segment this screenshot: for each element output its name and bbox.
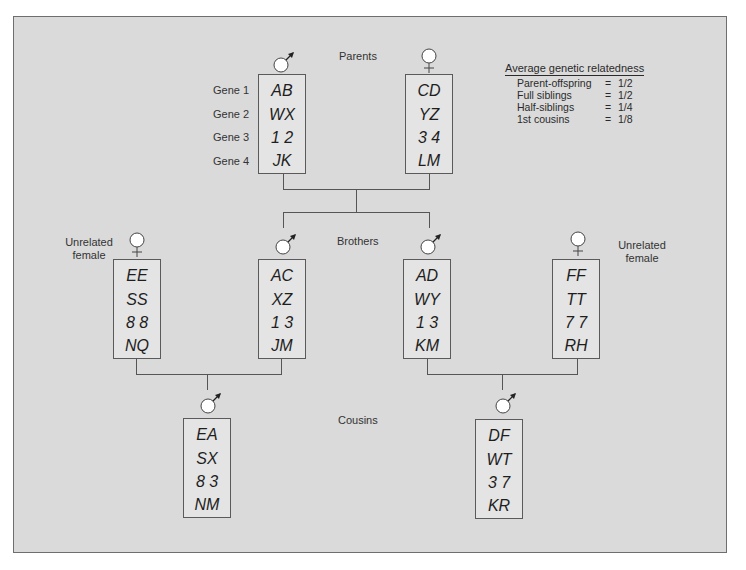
male-symbol-icon	[199, 391, 225, 415]
connector-line	[429, 212, 430, 228]
connector-line	[429, 174, 430, 189]
connector-line	[427, 358, 428, 374]
legend-row-full-siblings: Full siblings=1/2	[517, 90, 633, 101]
connector-line	[283, 174, 284, 189]
male-symbol-icon	[494, 391, 520, 415]
connector-line	[577, 358, 578, 374]
genotype-box-unrelated-female-right: FF TT 7 7 RH	[552, 259, 600, 359]
label-unrelated-female-left: Unrelated female	[61, 236, 117, 262]
legend-row-parent-offspring: Parent-offspring=1/2	[517, 78, 633, 89]
legend-title: Average genetic relatedness	[505, 62, 644, 76]
legend-row-first-cousins: 1st cousins=1/8	[517, 114, 633, 125]
gene-label-3: Gene 3	[213, 131, 249, 144]
connector-line	[207, 374, 208, 390]
connector-line	[283, 212, 284, 228]
female-symbol-icon	[419, 48, 439, 74]
female-symbol-icon	[568, 231, 588, 257]
connector-line	[281, 358, 282, 374]
genotype-box-father: AB WX 1 2 JK	[258, 74, 306, 174]
connector-line	[136, 358, 137, 374]
gene-label-1: Gene 1	[213, 84, 249, 97]
label-parents: Parents	[339, 50, 377, 63]
genotype-box-brother-left: AC XZ 1 3 JM	[258, 259, 306, 359]
genotype-box-mother: CD YZ 3 4 LM	[405, 74, 453, 174]
genotype-box-cousin-left: EA SX 8 3 NM	[183, 418, 231, 518]
genotype-box-unrelated-female-left: EE SS 8 8 NQ	[113, 259, 161, 359]
connector-line	[283, 212, 430, 213]
gene-label-2: Gene 2	[213, 108, 249, 121]
label-cousins: Cousins	[338, 414, 378, 427]
gene-label-4: Gene 4	[213, 155, 249, 168]
genotype-box-cousin-right: DF WT 3 7 KR	[475, 419, 523, 519]
female-symbol-icon	[127, 232, 147, 258]
male-symbol-icon	[272, 51, 298, 73]
male-symbol-icon	[419, 232, 445, 256]
label-brothers: Brothers	[337, 235, 379, 248]
male-symbol-icon	[274, 232, 300, 256]
legend-row-half-siblings: Half-siblings=1/4	[517, 102, 633, 113]
connector-line	[356, 189, 357, 212]
genotype-box-brother-right: AD WY 1 3 KM	[403, 259, 451, 359]
connector-line	[136, 374, 282, 375]
connector-line	[502, 374, 503, 390]
label-unrelated-female-right: Unrelated female	[614, 239, 670, 265]
